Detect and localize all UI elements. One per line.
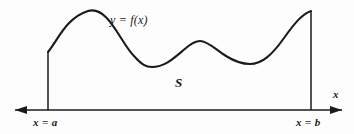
function-label: y = f(x) <box>110 14 148 26</box>
function-curve <box>48 10 311 67</box>
figure-canvas <box>0 0 354 134</box>
x-axis-right-arrowhead <box>330 106 342 114</box>
x-axis-label: x <box>333 89 339 100</box>
area-under-curve-figure: y = f(x) S x x = a x = b <box>0 0 354 134</box>
x-axis-left-arrowhead <box>15 106 27 114</box>
right-bound-label: x = b <box>296 117 321 128</box>
left-bound-label: x = a <box>33 117 58 128</box>
region-label: S <box>175 76 182 89</box>
